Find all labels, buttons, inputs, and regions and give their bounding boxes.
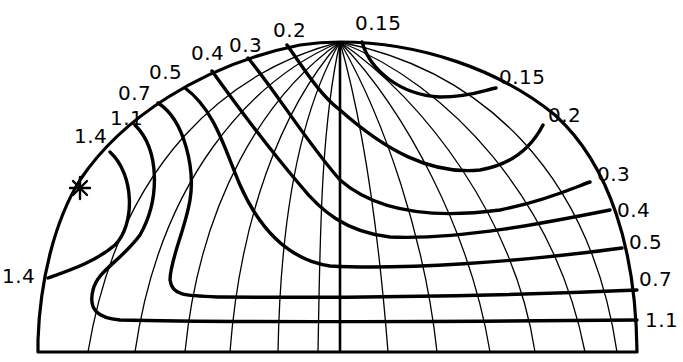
label-right-1-1: 1.1 [645, 308, 678, 332]
label-right-0-4: 0.4 [617, 198, 650, 222]
label-right-0-3: 0.3 [597, 162, 630, 186]
label-right-0-5: 0.5 [629, 230, 662, 254]
star-marker [70, 177, 90, 199]
label-left-0-7: 0.7 [118, 81, 151, 105]
label-left-1-4: 1.4 [74, 124, 107, 148]
label-right-0-7: 0.7 [639, 267, 672, 291]
label-top-0-15: 0.15 [355, 11, 402, 35]
label-left-1-4-bottom: 1.4 [2, 264, 35, 288]
contour-diagram: 1.4 1.4 1.1 0.7 0.5 0.4 0.3 0.2 0.15 0.1… [0, 0, 683, 362]
label-left-0-4: 0.4 [191, 41, 224, 65]
label-right-0-15: 0.15 [499, 65, 546, 89]
label-right-0-2: 0.2 [548, 103, 581, 127]
label-left-0-5: 0.5 [149, 60, 182, 84]
label-left-1-1: 1.1 [110, 106, 143, 130]
label-left-0-2: 0.2 [273, 18, 306, 42]
label-left-0-3: 0.3 [229, 33, 262, 57]
